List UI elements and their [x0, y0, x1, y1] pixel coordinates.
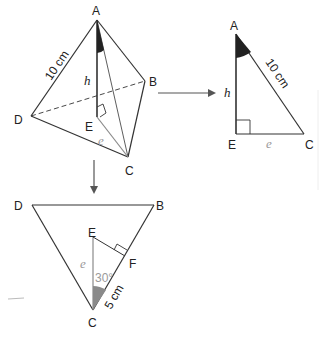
edge-BC	[128, 81, 145, 157]
vertex-F: F	[129, 257, 136, 271]
hypotenuse-label: 10 cm	[263, 56, 293, 91]
pyramid	[31, 20, 145, 157]
vertex-E: E	[88, 226, 96, 240]
tetrahedron-diagram: A B C D E 10 cm h e A E C 10 cm h e D B …	[0, 0, 325, 345]
segment-e-label: e	[80, 256, 86, 271]
segment-e-label: e	[98, 133, 104, 148]
vertex-C: C	[125, 164, 134, 178]
edge-length-label: 10 cm	[42, 48, 72, 83]
vertex-A: A	[92, 4, 100, 18]
angle-label: 30°	[95, 271, 113, 285]
right-angle-marker	[97, 104, 106, 117]
half-side-label: 5 cm	[101, 282, 126, 312]
vertex-B: B	[156, 199, 164, 213]
vertex-E: E	[228, 138, 236, 152]
arrow-down	[90, 160, 98, 194]
vertex-A: A	[230, 19, 238, 33]
segment-EF	[93, 237, 125, 256]
vertex-B: B	[149, 75, 157, 89]
vertex-C: C	[88, 316, 97, 330]
vertex-D: D	[14, 113, 23, 127]
height-label: h	[224, 85, 231, 100]
right-angle-marker	[236, 120, 250, 134]
edge-AD	[31, 20, 97, 116]
vertex-E: E	[85, 120, 93, 134]
arrow-right	[158, 89, 216, 97]
segment-e-label: e	[266, 136, 272, 151]
angle-marker-A	[236, 34, 251, 58]
right-angle-marker	[114, 244, 127, 250]
height-label: h	[84, 73, 91, 88]
edge-DC	[31, 116, 128, 157]
stray-mark	[8, 298, 24, 299]
vertex-D: D	[14, 199, 23, 213]
vertex-C: C	[305, 138, 314, 152]
